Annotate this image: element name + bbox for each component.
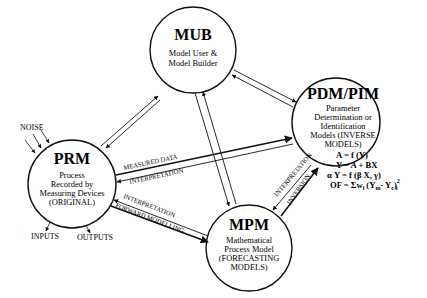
model-relationship-diagram: MUB Model User & Model Builder PDM/PIM P… xyxy=(0,0,427,298)
interpretation-prm-pdm-label: INTERPRETATION xyxy=(129,167,184,185)
mub-pdm-arrows xyxy=(232,70,296,107)
mub-title: MUB xyxy=(174,26,212,43)
inputs-label: INPUTS xyxy=(31,232,59,241)
pdm-line-5: MODELS) xyxy=(324,140,361,149)
prm-line-1: Process xyxy=(59,171,85,180)
mpm-title: MPM xyxy=(229,216,269,233)
mub-mpm-arrows xyxy=(195,92,236,206)
pdm-line-2: Determination or xyxy=(314,113,372,122)
mpm-line-1: Mathematical xyxy=(226,236,273,245)
mub-line-2: Model Builder xyxy=(168,59,217,68)
equations-block: A = f (Y) Y = A + BX α Y = f (β X, γ) OF… xyxy=(327,150,400,191)
mpm-line-4: MODELS) xyxy=(230,263,267,272)
prm-line-3: Measuring Devices xyxy=(40,189,105,198)
prm-line-2: Recorded by xyxy=(51,180,94,189)
mpm-line-3: (FORECASTING xyxy=(219,254,280,263)
equation-2: Y = A + BX xyxy=(336,160,378,170)
inputs-arrow xyxy=(46,222,50,231)
equation-1: A = f (Y) xyxy=(336,150,368,160)
pdm-line-1: Parameter xyxy=(326,104,360,113)
pdm-title: PDM/PIM xyxy=(307,85,379,102)
equation-3: α Y = f (β X, γ) xyxy=(327,170,381,180)
outputs-label: OUTPUTS xyxy=(77,233,113,242)
pdm-line-4: Models (INVERSE xyxy=(310,131,375,140)
mub-line-1: Model User & xyxy=(169,49,218,58)
mub-prm-arrows xyxy=(101,96,160,148)
mpm-line-2: Process Model xyxy=(224,245,274,254)
noise-label: NOISE xyxy=(20,123,44,132)
prm-line-4: (ORIGINAL) xyxy=(49,198,95,207)
outputs-arrow xyxy=(86,225,90,233)
prm-title: PRM xyxy=(54,150,90,167)
pdm-line-3: Identification xyxy=(320,122,366,131)
diagram-canvas: MUB Model User & Model Builder PDM/PIM P… xyxy=(0,0,427,298)
